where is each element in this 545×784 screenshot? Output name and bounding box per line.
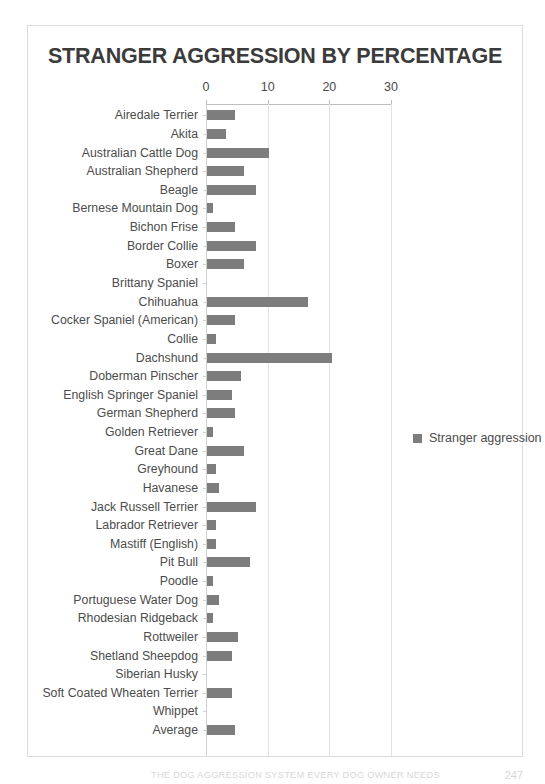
- y-axis-category-label: Boxer: [166, 257, 198, 271]
- y-axis-category-label: Mastiff (English): [110, 537, 198, 551]
- chart-row: Bichon Frise: [206, 218, 391, 237]
- chart-bar: [207, 148, 269, 158]
- y-axis-category-label: Rhodesian Ridgeback: [78, 611, 198, 625]
- y-axis-tick: [203, 153, 206, 154]
- y-axis-category-label: Airedale Terrier: [115, 108, 198, 122]
- y-axis-tick: [203, 451, 206, 452]
- y-axis-category-label: Dachshund: [136, 351, 198, 365]
- y-axis-tick: [203, 302, 206, 303]
- chart-row: Border Collie: [206, 236, 391, 255]
- y-axis-category-label: German Shepherd: [97, 406, 198, 420]
- x-axis-tick: [206, 100, 207, 105]
- y-axis-category-label: Jack Russell Terrier: [91, 500, 198, 514]
- x-axis-line: [206, 104, 391, 105]
- y-axis-tick: [203, 134, 206, 135]
- chart-bar: [207, 315, 235, 325]
- legend-swatch-icon: [413, 434, 422, 443]
- y-axis-category-label: Rottweiler: [143, 630, 198, 644]
- y-axis-tick: [203, 674, 206, 675]
- chart-row: Cocker Spaniel (American): [206, 311, 391, 330]
- chart-bar: [207, 632, 238, 642]
- y-axis-tick: [203, 320, 206, 321]
- y-axis-category-label: Average: [152, 723, 198, 737]
- chart-bar: [207, 613, 213, 623]
- footer-title: THE DOG AGGRESSION SYSTEM EVERY DOG OWNE…: [151, 770, 440, 780]
- y-axis-tick: [203, 562, 206, 563]
- y-axis-category-label: Brittany Spaniel: [112, 276, 198, 290]
- chart-bar: [207, 539, 216, 549]
- y-axis-tick: [203, 525, 206, 526]
- y-axis-category-label: Collie: [167, 332, 198, 346]
- chart-bar: [207, 427, 213, 437]
- chart-legend: Stranger aggression: [413, 431, 542, 445]
- chart-row: Chihuahua: [206, 292, 391, 311]
- y-axis-tick: [203, 711, 206, 712]
- y-axis-category-label: Border Collie: [127, 239, 198, 253]
- y-axis-tick: [203, 730, 206, 731]
- chart-row: Soft Coated Wheaten Terrier: [206, 684, 391, 703]
- chart-row: Golden Retriever: [206, 423, 391, 442]
- y-axis-tick: [203, 693, 206, 694]
- y-axis-category-label: Greyhound: [137, 462, 198, 476]
- y-axis-tick: [203, 376, 206, 377]
- y-axis-tick: [203, 171, 206, 172]
- chart-row: Brittany Spaniel: [206, 274, 391, 293]
- y-axis-tick: [203, 600, 206, 601]
- y-axis-tick: [203, 190, 206, 191]
- chart-bar: [207, 483, 219, 493]
- y-axis-category-label: Labrador Retriever: [95, 518, 198, 532]
- chart-bar: [207, 595, 219, 605]
- page-footer: THE DOG AGGRESSION SYSTEM EVERY DOG OWNE…: [0, 770, 545, 784]
- y-axis-category-label: Soft Coated Wheaten Terrier: [42, 686, 198, 700]
- y-axis-category-label: Bernese Mountain Dog: [72, 201, 198, 215]
- chart-row: German Shepherd: [206, 404, 391, 423]
- chart-row: Labrador Retriever: [206, 516, 391, 535]
- y-axis-tick: [203, 115, 206, 116]
- chart-bar: [207, 185, 256, 195]
- y-axis-category-label: Pit Bull: [160, 555, 198, 569]
- y-axis-tick: [203, 432, 206, 433]
- chart-row: Bernese Mountain Dog: [206, 199, 391, 218]
- y-axis-tick: [203, 358, 206, 359]
- chart-bar: [207, 390, 232, 400]
- chart-row: Havanese: [206, 479, 391, 498]
- y-axis-category-label: Doberman Pinscher: [89, 369, 198, 383]
- y-axis-category-label: Havanese: [143, 481, 198, 495]
- y-axis-tick: [203, 488, 206, 489]
- chart-row: Mastiff (English): [206, 534, 391, 553]
- y-axis-category-label: Beagle: [160, 183, 198, 197]
- chart-row: Jack Russell Terrier: [206, 497, 391, 516]
- y-axis-category-label: Cocker Spaniel (American): [51, 313, 198, 327]
- chart-row: Australian Shepherd: [206, 162, 391, 181]
- y-axis-tick: [203, 339, 206, 340]
- y-axis-category-label: Siberian Husky: [115, 667, 198, 681]
- x-axis-tick-label: 0: [203, 80, 210, 94]
- chart-row: Whippet: [206, 702, 391, 721]
- y-axis-category-label: Golden Retriever: [105, 425, 198, 439]
- chart-row: Portuguese Water Dog: [206, 590, 391, 609]
- chart-bar: [207, 353, 332, 363]
- y-axis-tick: [203, 581, 206, 582]
- chart-bar: [207, 222, 235, 232]
- y-axis-category-label: Australian Shepherd: [87, 164, 198, 178]
- y-axis-category-label: Great Dane: [134, 444, 198, 458]
- y-axis-category-label: Portuguese Water Dog: [73, 593, 198, 607]
- x-axis-tick-label: 30: [384, 80, 398, 94]
- chart-row: Siberian Husky: [206, 665, 391, 684]
- y-axis-tick: [203, 283, 206, 284]
- x-axis-tick-label: 20: [322, 80, 336, 94]
- chart-row: Doberman Pinscher: [206, 367, 391, 386]
- chart-row: Airedale Terrier: [206, 106, 391, 125]
- chart-bar: [207, 464, 216, 474]
- chart-row: Collie: [206, 330, 391, 349]
- y-axis-category-label: Poodle: [160, 574, 198, 588]
- y-axis-category-label: Chihuahua: [139, 295, 199, 309]
- y-axis-tick: [203, 395, 206, 396]
- chart-row: Pit Bull: [206, 553, 391, 572]
- chart-row: Poodle: [206, 572, 391, 591]
- page-title: STRANGER AGGRESSION BY PERCENTAGE: [28, 44, 522, 69]
- y-axis-tick: [203, 618, 206, 619]
- chart-row: Rottweiler: [206, 628, 391, 647]
- y-axis-tick: [203, 656, 206, 657]
- y-axis-category-label: Whippet: [153, 704, 198, 718]
